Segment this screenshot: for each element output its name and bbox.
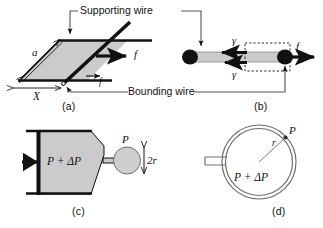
panel-a-force-label-upper: f xyxy=(134,49,137,60)
panel-a-supporting-wire-leader xyxy=(70,11,78,34)
panel-b-left-wire-endpoint xyxy=(182,50,198,65)
panel-d-wall-point xyxy=(283,135,287,139)
panel-d-tag: (d) xyxy=(272,206,285,217)
figure-container: Supporting wire Bounding wire a X f f (a… xyxy=(0,0,323,228)
panel-d-radius-label: r xyxy=(272,139,276,149)
panel-b-graphic xyxy=(181,11,314,92)
panel-c-neck xyxy=(103,158,114,163)
panel-c-outer-pressure-label: P xyxy=(122,134,129,145)
panel-a-width-label: X xyxy=(33,91,40,103)
panel-b-supporting-wire-leader xyxy=(181,11,201,46)
panel-a-bounding-wire-endpoint xyxy=(62,82,66,86)
panel-a-side-label: a xyxy=(32,47,38,58)
panel-d-outer-pressure-label: P xyxy=(289,125,296,136)
panel-b-force-label: f xyxy=(296,41,299,52)
panel-c-bubble xyxy=(114,147,141,174)
panel-a-tag: (a) xyxy=(62,101,75,112)
panel-d-inner-pressure-label: P + ΔP xyxy=(234,172,268,184)
panel-a-bounding-wire-leader xyxy=(67,87,128,92)
bounding-wire-label: Bounding wire xyxy=(128,86,195,97)
panel-d-inlet-tube xyxy=(205,157,227,165)
panel-b-tag: (b) xyxy=(254,101,267,112)
panel-d-graphic xyxy=(205,125,296,199)
figure-canvas xyxy=(0,0,323,228)
panel-c-inner-pressure-label: P + ΔP xyxy=(47,156,81,168)
panel-c-tag: (c) xyxy=(72,206,85,217)
panel-c-diameter-label: 2r xyxy=(147,155,157,166)
panel-b-gamma-bottom-label: γ xyxy=(232,70,236,81)
panel-b-bounding-wire-leader xyxy=(194,66,285,92)
supporting-wire-label: Supporting wire xyxy=(80,5,153,16)
panel-a-force-label-lower: f xyxy=(99,78,102,88)
panel-b-gamma-top-label: γ xyxy=(232,36,236,47)
